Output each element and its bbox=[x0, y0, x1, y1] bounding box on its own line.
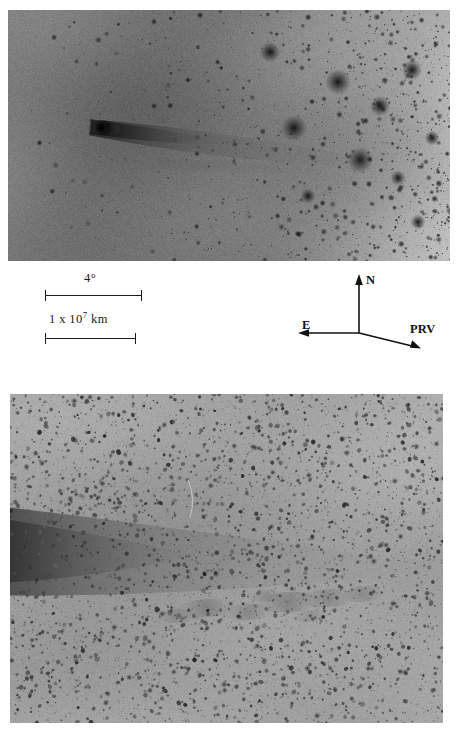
scale-bar-linear-rule bbox=[45, 338, 136, 339]
prv-arrow-shaft bbox=[359, 333, 414, 347]
scale-bar-angular-rule bbox=[45, 295, 142, 296]
annotation-strip: 4° 1 x 107 km N bbox=[0, 262, 457, 392]
deep-exposure-tail-canvas bbox=[10, 394, 443, 723]
scale-bar-angular-cap-right bbox=[141, 290, 142, 301]
panel-top-wide-field-comet-image bbox=[8, 10, 450, 261]
scale-label-linear: 1 x 107 km bbox=[49, 312, 108, 327]
scale-label-linear-unit: km bbox=[91, 312, 108, 326]
scale-bar-linear bbox=[45, 333, 136, 344]
scale-bar-linear-cap-right bbox=[135, 333, 136, 344]
compass-label-east: E bbox=[302, 318, 310, 333]
compass-rose: N E PRV bbox=[280, 262, 457, 362]
scale-label-linear-exponent: 7 bbox=[83, 310, 88, 320]
panel-bottom-deep-exposure-tail-image bbox=[10, 394, 443, 723]
scale-bar-angular bbox=[45, 290, 142, 301]
north-arrow-head bbox=[355, 274, 363, 285]
scale-label-linear-mantissa: 1 x 10 bbox=[49, 312, 83, 326]
wide-field-comet-canvas bbox=[8, 10, 450, 261]
comet-figure: 4° 1 x 107 km N bbox=[0, 0, 457, 733]
compass-label-north: N bbox=[366, 273, 375, 288]
scale-label-angular: 4° bbox=[84, 271, 96, 286]
prv-arrow-head bbox=[410, 340, 421, 348]
compass-label-prv: PRV bbox=[410, 322, 435, 337]
